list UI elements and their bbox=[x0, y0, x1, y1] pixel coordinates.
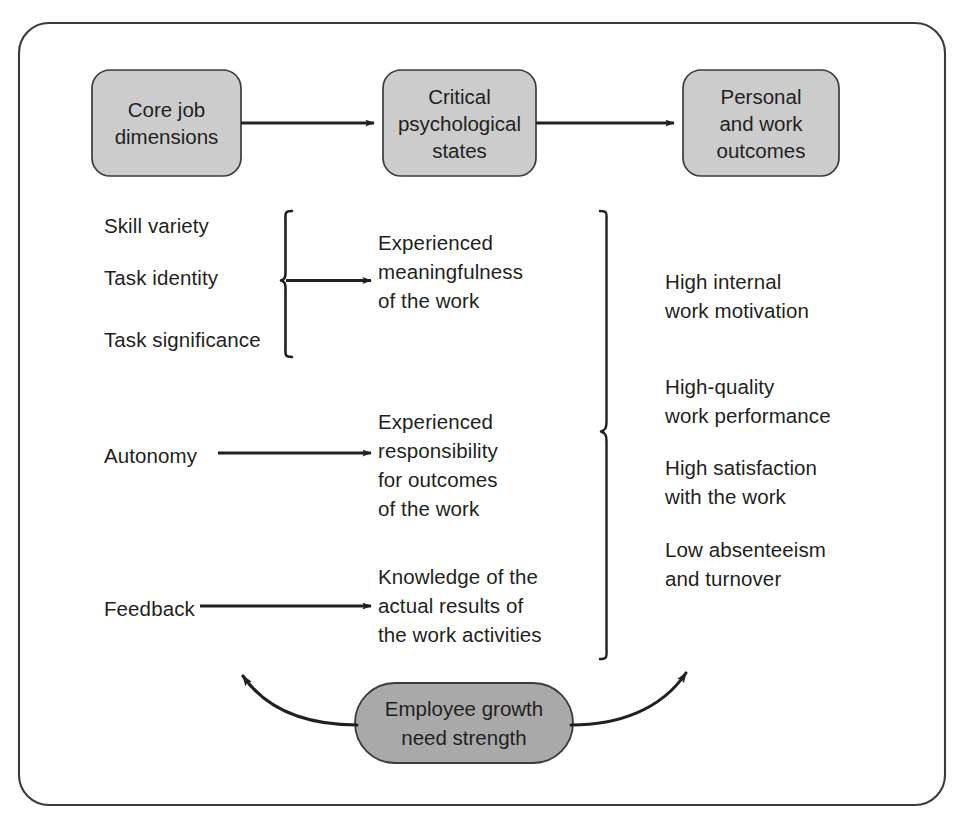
dimension-task-significance: Task significance bbox=[104, 325, 261, 354]
dimension-autonomy: Autonomy bbox=[104, 441, 197, 470]
outcome-low-absenteeism-and-turnover: Low absenteeism and turnover bbox=[665, 535, 826, 593]
brace-skill-identity-significance bbox=[281, 211, 292, 357]
outcome-high-internal-work-motivation: High internal work motivation bbox=[665, 267, 809, 325]
dimension-task-identity: Task identity bbox=[104, 263, 218, 292]
curve-growth-need-to-outcomes bbox=[571, 673, 686, 725]
outcome-high-satisfaction-with-the-work: High satisfaction with the work bbox=[665, 453, 817, 511]
stage-box-core-job-dimensions bbox=[92, 70, 241, 176]
job-characteristics-model-figure: Core job dimensions Critical psychologic… bbox=[0, 0, 963, 824]
state-knowledge-of-results: Knowledge of the actual results of the w… bbox=[378, 562, 542, 649]
dimension-skill-variety: Skill variety bbox=[104, 211, 209, 240]
state-experienced-responsibility: Experienced responsibility for outcomes … bbox=[378, 407, 498, 523]
moderator-oval-employee-growth-need-strength bbox=[355, 683, 573, 763]
stage-box-personal-and-work-outcomes bbox=[683, 70, 839, 176]
state-experienced-meaningfulness: Experienced meaningfulness of the work bbox=[378, 228, 523, 315]
outcome-high-quality-work-performance: High-quality work performance bbox=[665, 372, 831, 430]
dimension-feedback: Feedback bbox=[104, 594, 195, 623]
curve-growth-need-to-states bbox=[243, 676, 357, 725]
brace-states-to-outcomes bbox=[600, 211, 607, 659]
stage-box-critical-psychological-states bbox=[383, 70, 536, 176]
